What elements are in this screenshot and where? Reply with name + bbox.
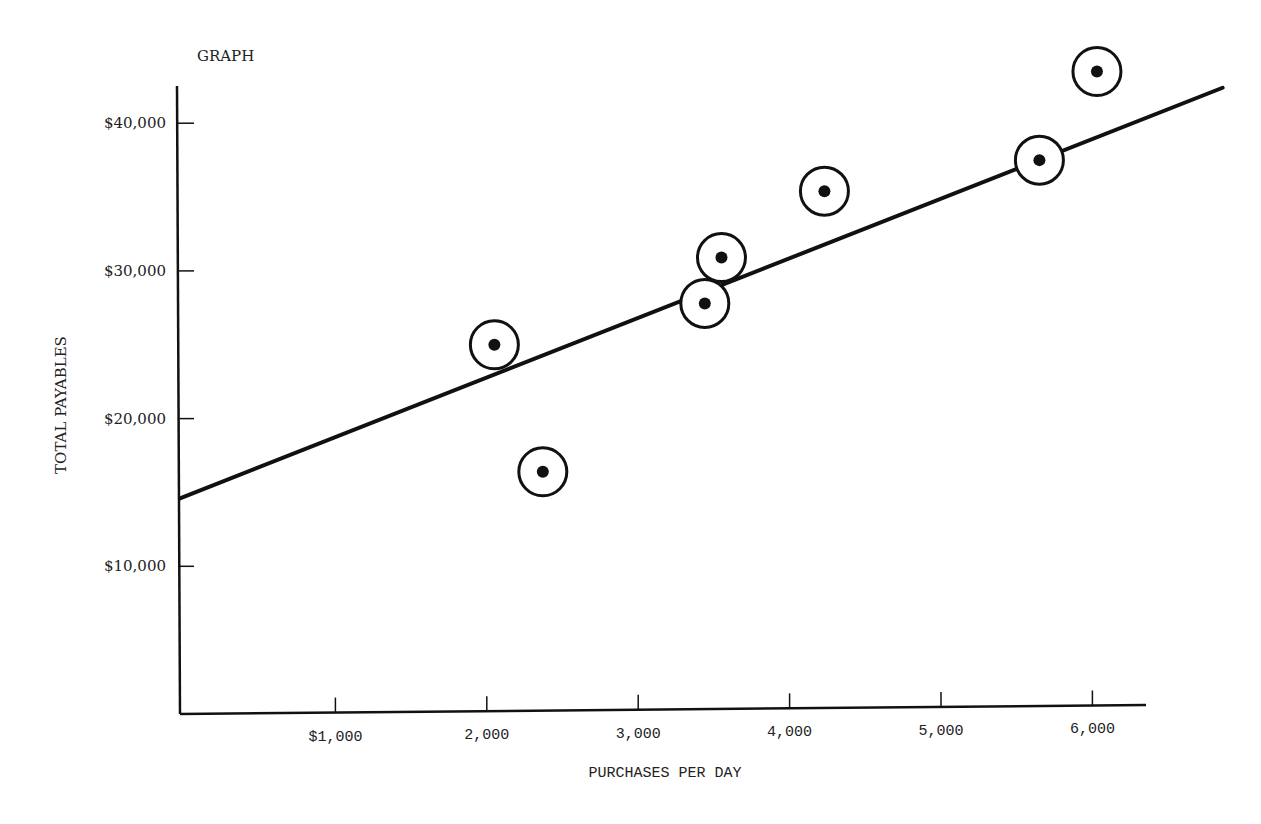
data-point (697, 234, 745, 282)
x-axis-ticks: $1,0002,0003,0004,0005,0006,000 (308, 690, 1115, 745)
point-dot (1033, 154, 1045, 166)
data-point (470, 321, 518, 369)
point-dot (488, 339, 500, 351)
x-axis-label: PURCHASES PER DAY (588, 765, 741, 782)
x-tick-label: $1,000 (308, 729, 362, 746)
y-tick-label: $40,000 (104, 114, 166, 132)
point-dot (818, 185, 830, 197)
data-points (470, 48, 1121, 496)
y-axis-ticks: $10,000$20,000$30,000$40,000 (104, 114, 194, 575)
point-dot (699, 297, 711, 309)
point-dot (1091, 66, 1103, 78)
x-tick-label: 2,000 (464, 727, 509, 744)
data-point (681, 279, 729, 327)
data-point (519, 448, 567, 496)
x-axis (180, 705, 1146, 714)
data-point (1015, 136, 1063, 184)
x-tick-label: 5,000 (918, 723, 963, 740)
x-tick-label: 4,000 (767, 724, 812, 741)
point-dot (715, 252, 727, 264)
y-axis (177, 86, 180, 714)
data-point (800, 167, 848, 215)
y-tick-label: $30,000 (104, 262, 166, 280)
data-point (1073, 48, 1121, 96)
x-tick-label: 6,000 (1070, 721, 1115, 738)
x-tick-label: 3,000 (616, 726, 661, 743)
scatter-chart: GRAPH $10,000$20,000$30,000$40,000 $1,00… (0, 0, 1261, 824)
chart-title: GRAPH (197, 47, 254, 65)
point-dot (537, 466, 549, 478)
y-tick-label: $10,000 (104, 557, 166, 575)
y-axis-label: TOTAL PAYABLES (52, 336, 70, 474)
y-tick-label: $20,000 (104, 410, 166, 428)
